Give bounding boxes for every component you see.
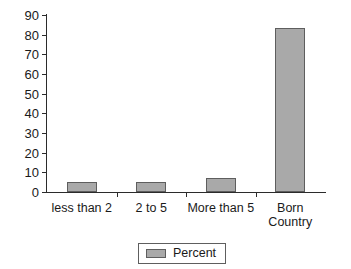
bar	[67, 182, 97, 192]
x-axis-category-label: 2 to 5	[136, 201, 167, 215]
y-axis-tick-mark	[42, 35, 47, 36]
legend-label-percent: Percent	[173, 247, 216, 260]
legend-swatch-percent	[146, 249, 166, 258]
y-axis-tick-mark	[42, 133, 47, 134]
y-axis-tick-mark	[42, 192, 47, 193]
x-axis-category-label: More than 5	[187, 201, 254, 215]
bar-chart: 0102030405060708090less than 22 to 5More…	[0, 0, 351, 269]
y-axis-tick-label: 20	[25, 146, 39, 159]
y-axis-tick-label: 0	[32, 186, 39, 199]
y-axis-tick-mark	[42, 15, 47, 16]
bar	[136, 182, 166, 192]
y-axis-tick-mark	[42, 94, 47, 95]
x-axis-tick-mark	[256, 192, 257, 197]
y-axis-tick-label: 10	[25, 166, 39, 179]
y-axis-tick-mark	[42, 74, 47, 75]
y-axis-tick-label: 50	[25, 87, 39, 100]
y-axis-tick-label: 80	[25, 28, 39, 41]
x-axis-tick-mark	[117, 192, 118, 197]
y-axis-tick-mark	[42, 54, 47, 55]
y-axis-tick-label: 70	[25, 48, 39, 61]
y-axis-tick-label: 60	[25, 68, 39, 81]
bar	[206, 178, 236, 192]
plot-area: 0102030405060708090less than 22 to 5More…	[47, 15, 325, 192]
y-axis-tick-mark	[42, 113, 47, 114]
x-axis-category-label: Born Country	[268, 201, 312, 229]
y-axis-tick-mark	[42, 172, 47, 173]
y-axis-tick-label: 30	[25, 127, 39, 140]
bar	[275, 28, 305, 192]
y-axis-tick-mark	[42, 153, 47, 154]
y-axis-tick-label: 90	[25, 9, 39, 22]
y-axis-tick-label: 40	[25, 107, 39, 120]
x-axis-category-label: less than 2	[52, 201, 112, 215]
chart-legend: Percent	[138, 243, 226, 264]
x-axis-tick-mark	[186, 192, 187, 197]
